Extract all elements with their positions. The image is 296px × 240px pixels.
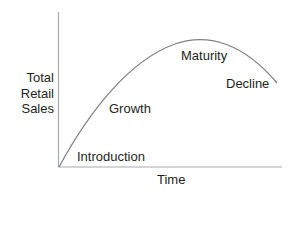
life-cycle-curve [59,40,277,167]
stage-label-maturity: Maturity [181,48,227,63]
x-axis-label: Time [157,172,185,187]
y-axis-label-line: Retail [0,86,54,102]
stage-label-growth: Growth [109,101,151,116]
stage-label-decline: Decline [226,76,269,91]
y-axis-label: Total Retail Sales [0,70,54,117]
stage-label-introduction: Introduction [77,149,145,164]
y-axis-label-line: Total [0,70,54,86]
y-axis-label-line: Sales [0,101,54,117]
